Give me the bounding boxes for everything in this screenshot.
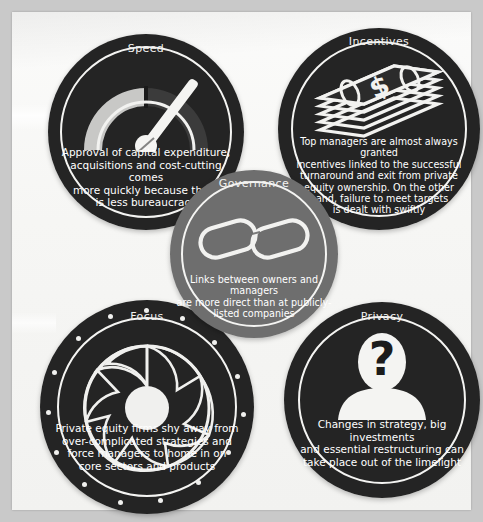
badge-governance[interactable]: Governance Links between owners and mana… (170, 170, 338, 338)
bolt-dot (241, 412, 246, 417)
desc-line: listed companies (174, 308, 334, 319)
infographic-sheet: Speed Ap (12, 12, 471, 510)
badge-governance-description: Links between owners and managers are mo… (170, 274, 338, 320)
money-stack-icon: $ (308, 56, 450, 140)
badge-focus-description: Private equity firms shy away from over-… (40, 422, 254, 472)
desc-line: Approval of capital expenditure, (52, 146, 240, 159)
anonymous-person-question-icon: ? (332, 328, 432, 420)
badge-speed-label: Speed (48, 42, 244, 55)
badge-governance-label: Governance (170, 177, 338, 190)
desc-line: incentives linked to the successful (282, 159, 476, 170)
desc-line: force managers to home in on (44, 447, 250, 460)
speedometer-icon (74, 66, 218, 152)
badge-focus[interactable]: Focus (40, 300, 254, 514)
bolt-dot (235, 374, 240, 379)
badge-privacy[interactable]: Privacy ? Changes in strategy, big inves… (284, 302, 480, 498)
bolt-dot (46, 410, 51, 415)
desc-line: core sectors and products (44, 460, 250, 473)
desc-line: Changes in strategy, big investments (288, 418, 476, 443)
chain-link-icon (194, 208, 314, 270)
bolt-dot (52, 370, 57, 375)
desc-line: Top managers are almost always granted (282, 136, 476, 159)
badge-incentives-label: Incentives (278, 35, 480, 48)
bolt-dot (82, 482, 87, 487)
badge-privacy-description: Changes in strategy, big investments and… (284, 418, 480, 468)
svg-text:?: ? (369, 332, 396, 386)
desc-line: and essential restructuring can (288, 443, 476, 456)
desc-line: take place out of the limelight (288, 456, 476, 469)
desc-line: are more direct than at publicly- (174, 297, 334, 308)
desc-line: over-complicated strategies and (44, 435, 250, 448)
desc-line: Private equity firms shy away from (44, 422, 250, 435)
bolt-dot (196, 480, 201, 485)
bolt-dot (158, 498, 163, 503)
desc-line: Links between owners and managers (174, 274, 334, 297)
bolt-dot (118, 500, 123, 505)
